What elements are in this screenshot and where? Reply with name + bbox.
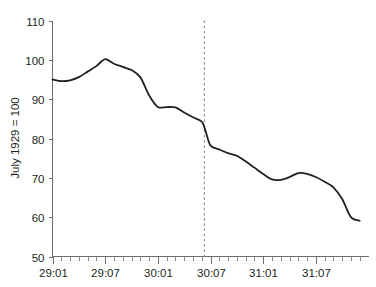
y-tick-label: 50 [32, 252, 45, 264]
y-tick-label: 80 [32, 134, 45, 146]
x-tick-label: 31:07 [302, 267, 331, 279]
x-tick-label: 29:07 [91, 267, 120, 279]
line-chart: 5060708090100110 29:0129:0730:0130:0731:… [0, 0, 376, 287]
series-line-industrial-production [53, 59, 360, 221]
y-axis-ticks: 5060708090100110 [25, 16, 52, 264]
chart-figure: 5060708090100110 29:0129:0730:0130:0731:… [0, 0, 376, 287]
y-tick-label: 110 [26, 16, 44, 28]
y-tick-label: 60 [32, 212, 45, 224]
x-tick-label: 29:01 [39, 267, 68, 279]
x-tick-label: 30:01 [144, 267, 173, 279]
y-tick-label: 70 [32, 173, 45, 185]
y-axis-title: July 1929 = 100 [9, 97, 21, 179]
y-tick-label: 100 [25, 55, 44, 67]
x-tick-label: 31:01 [249, 267, 278, 279]
y-tick-label: 90 [32, 94, 45, 106]
x-tick-label: 30:07 [197, 267, 226, 279]
